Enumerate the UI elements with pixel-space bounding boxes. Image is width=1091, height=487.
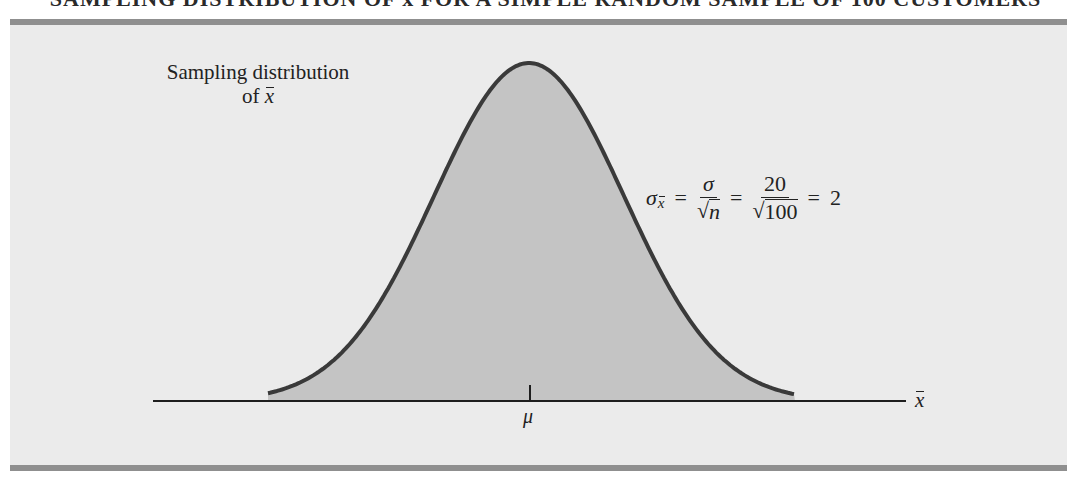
sampling-distribution-label: Sampling distribution of x: [160, 60, 356, 108]
standard-error-formula: σx = σ √n = 20 √100 = 2: [646, 172, 841, 223]
x-axis-label: x: [915, 388, 924, 412]
distribution-label-line2: of x: [160, 84, 356, 108]
fraction-sigma-over-root-n: σ √n: [697, 172, 720, 223]
denominator: √n: [697, 198, 720, 223]
distribution-label-line1: Sampling distribution: [160, 60, 356, 84]
equals-sign: =: [730, 185, 742, 210]
x-bar-subscript: x: [658, 195, 665, 212]
equals-sign: =: [675, 185, 687, 210]
radical-icon: √: [752, 199, 764, 222]
sigma-symbol: σ: [646, 185, 657, 210]
radical-icon: √: [697, 199, 709, 222]
formula-result: 2: [830, 185, 841, 210]
equals-sign: =: [808, 185, 820, 210]
numerator: 20: [761, 172, 789, 198]
x-bar-symbol: x: [915, 388, 924, 412]
numerator: σ: [700, 172, 717, 198]
fraction-20-over-root-100: 20 √100: [752, 172, 797, 223]
denominator: √100: [752, 198, 797, 223]
mean-label: μ: [523, 405, 533, 428]
x-bar-symbol: x: [265, 84, 274, 108]
